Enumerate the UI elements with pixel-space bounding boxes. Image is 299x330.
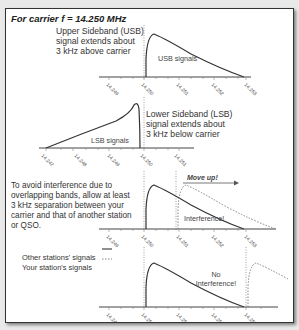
lsb-panel: LSB signals 14.247 14.248 14.249 14.250 … [39, 97, 194, 168]
no-interference-panel: No Interference! 14.249 14.250 14.251 14… [99, 247, 288, 322]
tick-label: 14.251 [175, 311, 190, 322]
tick-label: 14.251 [173, 152, 188, 167]
tick-label: 14.251 [175, 81, 190, 96]
tick-label: 14.250 [140, 81, 155, 96]
tick-label: 14.253 [243, 233, 258, 248]
tick-label: 14.250 [140, 233, 155, 248]
diagram-frame: For carrier f = 14.250 MHz Upper Sideban… [5, 8, 294, 323]
tick-label: 14.253 [243, 81, 258, 96]
tick-label: 14.252 [210, 311, 225, 322]
usb-signal-label: USB signals [158, 54, 198, 63]
tick-label: 14.252 [210, 81, 225, 96]
usb-panel: USB signals 14.249 14.250 14.251 14.252 … [99, 25, 259, 97]
move-up-label: Move up! [187, 174, 218, 182]
your-station-signal [248, 263, 288, 307]
tick-label: 14.247 [40, 152, 55, 167]
lsb-signal-label: LSB signals [91, 136, 129, 145]
tick-label: 14.250 [139, 152, 154, 167]
tick-label: 14.250 [140, 311, 155, 322]
interference-panel: Move up! Interference! 14.249 14.250 14.… [99, 171, 276, 249]
diagram-graphics: USB signals 14.249 14.250 14.251 14.252 … [6, 9, 293, 322]
tick-label: 14.249 [106, 152, 121, 167]
tick-label: 14.249 [105, 81, 120, 96]
tick-label: 14.251 [175, 233, 190, 248]
tick-label: 14.248 [73, 152, 88, 167]
tick-label: 14.252 [210, 233, 225, 248]
interference-label: Interference! [184, 214, 224, 223]
tick-label: 14.253 [243, 311, 258, 322]
tick-label: 14.249 [105, 233, 120, 248]
no-interference-label: Interference! [196, 279, 236, 288]
no-interference-label: No [211, 270, 220, 279]
tick-label: 14.249 [105, 311, 120, 322]
move-up-arrow-icon [234, 181, 239, 186]
